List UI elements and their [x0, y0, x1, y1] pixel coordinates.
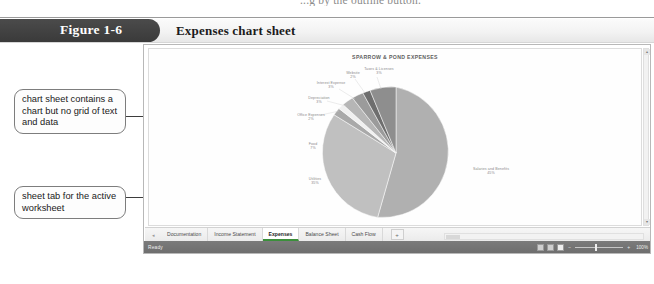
sheet-tab-balance-sheet[interactable]: Balance Sheet [299, 228, 345, 241]
pie-label-pct-office: 2% [285, 117, 337, 121]
zoom-slider[interactable] [575, 247, 623, 248]
pie-label-food: Food 7% [287, 142, 339, 151]
pie-label-pct-website: 2% [327, 75, 379, 79]
page-break-preview-icon[interactable] [557, 244, 564, 251]
tab-nav-prev-icon[interactable]: ◂ [145, 232, 161, 238]
pie-label-office-expenses: Office Expenses 2% [285, 113, 337, 122]
pie-label-pct-interest: 3% [305, 85, 357, 89]
vertical-scrollbar[interactable]: ▴ ▾ [643, 48, 649, 226]
pie-label-pct-depreciation: 3% [293, 100, 345, 104]
pie-slices [322, 87, 448, 218]
figure-bottom-rule [0, 42, 654, 43]
sheet-tab-cash-flow[interactable]: Cash Flow [346, 228, 383, 241]
excel-window-screenshot: SPARROW & POND EXPENSES [143, 44, 651, 254]
pie-label-pct-utilities: 35% [289, 181, 341, 185]
pie-label-pct-salaries: 45% [465, 171, 517, 175]
sheet-tab-documentation[interactable]: Documentation [161, 228, 208, 241]
horizontal-scrollbar[interactable] [444, 233, 644, 240]
pie-label-depreciation: Depreciation 3% [293, 96, 345, 105]
add-sheet-button[interactable]: + [391, 229, 404, 240]
scroll-down-icon[interactable]: ▾ [644, 219, 650, 225]
zoom-in-button[interactable]: + [626, 244, 631, 250]
pie-label-salaries-and-benefits: Salaries and Benefits 45% [465, 167, 517, 176]
chart-sheet-canvas[interactable]: SPARROW & POND EXPENSES [148, 48, 642, 226]
zoom-out-button[interactable]: − [567, 244, 572, 250]
page-running-text: ...g by the outline button. [300, 0, 640, 6]
page-layout-view-icon[interactable] [547, 244, 554, 251]
sheet-tab-income-statement[interactable]: Income Statement [208, 228, 262, 241]
sheet-tab-callout: sheet tab for the active worksheet [14, 186, 126, 219]
figure-number-label: Figure 1-6 [60, 22, 122, 38]
normal-view-icon[interactable] [537, 244, 544, 251]
chart-sheet-callout: chart sheet contains a chart but no grid… [14, 89, 126, 134]
zoom-slider-knob[interactable] [595, 244, 597, 251]
scroll-up-icon[interactable]: ▴ [644, 49, 650, 55]
pie-chart[interactable]: Taxes & Licenses 3% Website 2% Interest … [149, 49, 643, 227]
pie-label-website: Website 2% [327, 71, 379, 80]
figure-caption-bar: Figure 1-6 Expenses chart sheet [0, 19, 654, 42]
status-bar: Ready − + 100% [144, 241, 651, 253]
pie-label-interest-expense: Interest Expense 3% [305, 81, 357, 90]
pie-label-utilities: Utilities 35% [289, 177, 341, 186]
horizontal-scrollbar-knob[interactable] [446, 235, 460, 239]
status-bar-right: − + 100% [537, 241, 648, 253]
zoom-level-label[interactable]: 100% [636, 245, 648, 250]
pie-label-pct-food: 7% [287, 146, 339, 150]
status-ready-label: Ready [148, 245, 163, 250]
page-top-rule [0, 17, 654, 18]
figure-title: Expenses chart sheet [176, 23, 296, 39]
sheet-tab-expenses[interactable]: Expenses [263, 228, 300, 241]
